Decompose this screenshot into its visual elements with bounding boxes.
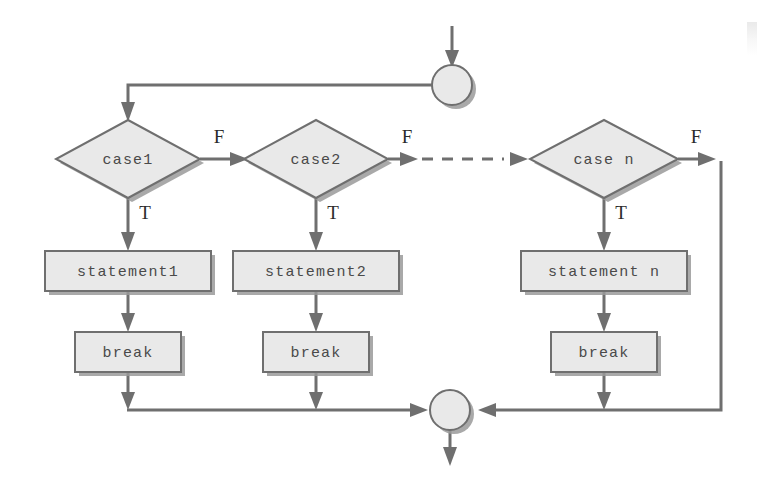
node-statement2[interactable]: statement2 bbox=[233, 251, 403, 295]
node-case-n[interactable]: case n bbox=[530, 120, 682, 202]
node-case2[interactable]: case2 bbox=[244, 120, 392, 202]
edge-case2-true-to-statement2 bbox=[309, 196, 323, 251]
node-statement-n[interactable]: statement n bbox=[521, 251, 691, 295]
branch-label-case2-true: T bbox=[327, 202, 339, 223]
node-statement1[interactable]: statement1 bbox=[45, 251, 215, 295]
node-break2[interactable]: break bbox=[263, 332, 373, 376]
branch-label-case-n-true: T bbox=[615, 202, 627, 223]
node-statement-n-label: statement n bbox=[548, 264, 660, 281]
node-case1[interactable]: case1 bbox=[56, 120, 204, 202]
edge-connector-to-case1 bbox=[121, 85, 432, 122]
node-break-n[interactable]: break bbox=[551, 332, 661, 376]
edge-breakn-to-rail bbox=[597, 372, 611, 410]
node-case-n-label: case n bbox=[573, 152, 634, 169]
edge-statementn-to-breakn bbox=[597, 290, 611, 332]
branch-label-case-n-false: F bbox=[691, 126, 702, 147]
node-statement2-label: statement2 bbox=[265, 264, 367, 281]
node-break1-label: break bbox=[102, 345, 153, 362]
node-break-n-label: break bbox=[578, 345, 629, 362]
edge-case1-true-to-statement1 bbox=[121, 196, 135, 251]
edge-break1-to-rail bbox=[121, 372, 135, 410]
branch-label-case2-false: F bbox=[402, 126, 413, 147]
edge-bottom-rail bbox=[127, 403, 428, 417]
branch-label-case1-true: T bbox=[139, 202, 151, 223]
node-exit-connector[interactable] bbox=[430, 390, 474, 434]
switch-case-flowchart: case1 case2 case n statement1 statement2 bbox=[0, 0, 761, 488]
edge-statement2-to-break2 bbox=[309, 290, 323, 332]
flowchart-canvas: case1 case2 case n statement1 statement2 bbox=[0, 0, 761, 488]
edge-statement1-to-break1 bbox=[121, 290, 135, 332]
edge-case1-false-to-case2 bbox=[200, 152, 248, 166]
edge-break2-to-rail bbox=[309, 372, 323, 410]
edge-ellipsis-dashed bbox=[422, 152, 528, 166]
node-case1-label: case1 bbox=[102, 152, 153, 169]
edge-casen-true-to-statementn bbox=[597, 196, 611, 251]
node-case2-label: case2 bbox=[290, 152, 341, 169]
node-entry-connector[interactable] bbox=[432, 65, 476, 109]
node-statement1-label: statement1 bbox=[77, 264, 179, 281]
branch-label-case1-false: F bbox=[214, 126, 225, 147]
edge-case2-false-stub bbox=[388, 152, 418, 166]
scan-edge-artifact bbox=[747, 22, 757, 56]
edge-entry-into-connector bbox=[445, 26, 459, 68]
node-break1[interactable]: break bbox=[75, 332, 185, 376]
edge-exit-arrow bbox=[443, 430, 457, 466]
node-break2-label: break bbox=[290, 345, 341, 362]
